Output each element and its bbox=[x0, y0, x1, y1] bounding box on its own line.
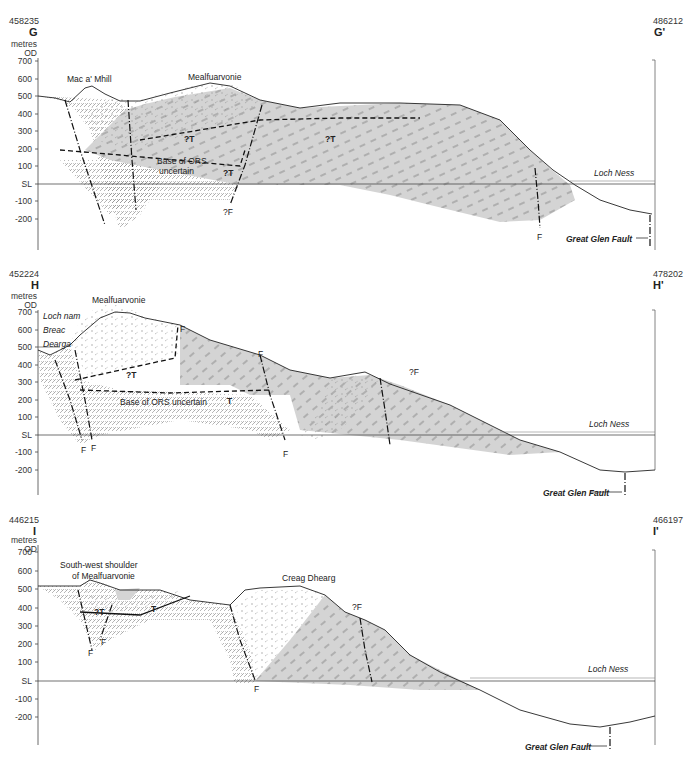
thrust-label: ?T bbox=[94, 607, 104, 617]
y-tick: 500 bbox=[2, 584, 32, 594]
fault-label: F bbox=[537, 232, 542, 242]
y-tick: 400 bbox=[2, 109, 32, 119]
fault-label: ?F bbox=[352, 602, 362, 612]
thrust-label: T bbox=[151, 604, 156, 614]
loch-ness-label: Loch Ness bbox=[589, 419, 629, 429]
fault-label: F bbox=[258, 349, 263, 359]
place-label: Mealfuarvonie bbox=[188, 72, 241, 82]
y-tick: -100 bbox=[2, 447, 32, 457]
right-grid-ref: 466197 bbox=[653, 515, 683, 525]
section-g bbox=[35, 58, 655, 250]
thrust-label: ?T bbox=[325, 134, 335, 144]
thrust-label: ?T bbox=[126, 370, 136, 380]
section-end-letter: H' bbox=[653, 279, 664, 291]
y-tick: -100 bbox=[2, 694, 32, 704]
fault-label: F bbox=[101, 637, 106, 647]
y-tick: -100 bbox=[2, 196, 32, 206]
lake-label-line: Dearga bbox=[43, 339, 71, 349]
lake-label-line: Loch nam bbox=[43, 311, 80, 321]
place-label: Mac a' Mhill bbox=[67, 74, 112, 84]
place-label: Creag Dhearg bbox=[282, 573, 335, 583]
y-tick: 200 bbox=[2, 144, 32, 154]
fault-label: F bbox=[91, 443, 96, 453]
y-tick: 700 bbox=[2, 56, 32, 66]
y-tick: 500 bbox=[2, 342, 32, 352]
fault-label: ?F bbox=[409, 367, 419, 377]
section-end-letter: G' bbox=[654, 26, 665, 38]
y-tick: 100 bbox=[2, 657, 32, 667]
fault-label: F bbox=[283, 449, 288, 459]
great-glen-fault-label: Great Glen Fault bbox=[525, 742, 591, 752]
base-ors-label: Base of ORS bbox=[157, 156, 207, 166]
y-tick: 400 bbox=[2, 360, 32, 370]
fault-label: F bbox=[88, 648, 93, 658]
y-tick: SL bbox=[2, 676, 32, 686]
thrust-label: T bbox=[227, 396, 232, 406]
left-grid-ref: 452224 bbox=[9, 269, 39, 279]
y-tick: 200 bbox=[2, 395, 32, 405]
y-tick: 600 bbox=[2, 74, 32, 84]
lake-label-line: Breac bbox=[43, 325, 65, 335]
right-grid-ref: 478202 bbox=[653, 269, 683, 279]
loch-ness-label: Loch Ness bbox=[594, 168, 634, 178]
y-tick: -200 bbox=[2, 712, 32, 722]
y-tick: 600 bbox=[2, 566, 32, 576]
thrust-label: ?T bbox=[223, 168, 233, 178]
y-tick: 700 bbox=[2, 307, 32, 317]
section-start-letter: G bbox=[29, 26, 38, 38]
y-tick: 300 bbox=[2, 126, 32, 136]
thrust-label: ?T bbox=[184, 134, 194, 144]
right-grid-ref: 486212 bbox=[653, 16, 683, 26]
y-tick: 300 bbox=[2, 621, 32, 631]
place-label: of Mealfuarvonie bbox=[72, 571, 135, 581]
y-tick: 200 bbox=[2, 639, 32, 649]
section-start-letter: H bbox=[31, 279, 39, 291]
left-grid-ref: 446215 bbox=[9, 515, 39, 525]
y-tick: -200 bbox=[2, 465, 32, 475]
fault-label: F bbox=[81, 445, 86, 455]
y-tick: 400 bbox=[2, 603, 32, 613]
left-grid-ref: 458235 bbox=[9, 16, 39, 26]
great-glen-fault-label: Great Glen Fault bbox=[566, 234, 632, 244]
place-label: Mealfuarvonie bbox=[92, 295, 145, 305]
y-tick: 100 bbox=[2, 161, 32, 171]
fault-label: F bbox=[180, 324, 185, 334]
loch-ness-label: Loch Ness bbox=[588, 664, 628, 674]
y-tick: SL bbox=[2, 430, 32, 440]
y-tick: -200 bbox=[2, 214, 32, 224]
base-ors-label: Base of ORS uncertain bbox=[120, 397, 207, 407]
y-tick: 100 bbox=[2, 412, 32, 422]
y-tick: 500 bbox=[2, 91, 32, 101]
fault-label: ?F bbox=[223, 207, 233, 217]
section-end-letter: I' bbox=[653, 525, 659, 537]
y-tick: SL bbox=[2, 179, 32, 189]
y-tick: 700 bbox=[2, 547, 32, 557]
great-glen-fault-label: Great Glen Fault bbox=[543, 488, 609, 498]
fault-label: F bbox=[254, 684, 259, 694]
place-label: South-west shoulder bbox=[60, 560, 138, 570]
y-tick: 600 bbox=[2, 325, 32, 335]
uncertain-label: uncertain bbox=[159, 166, 194, 176]
y-tick: 300 bbox=[2, 377, 32, 387]
